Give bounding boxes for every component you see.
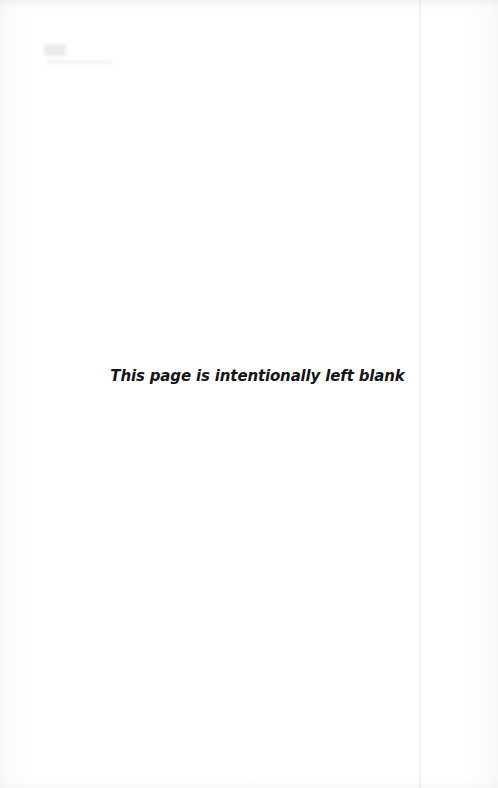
document-page: This page is intentionally left blank (0, 0, 498, 788)
show-through-ghost-mark-secondary (46, 60, 112, 64)
blank-page-notice: This page is intentionally left blank (0, 366, 498, 386)
scan-edge-shading-right (464, 0, 498, 788)
scan-streak-artifact (419, 0, 421, 788)
scan-edge-shading-top (0, 0, 498, 14)
show-through-ghost-mark (44, 44, 66, 56)
blank-page-notice-text: This page is intentionally left blank (110, 366, 404, 386)
page-background (0, 0, 498, 788)
scan-edge-shading-left (0, 0, 26, 788)
scan-edge-shading-bottom (0, 776, 498, 788)
